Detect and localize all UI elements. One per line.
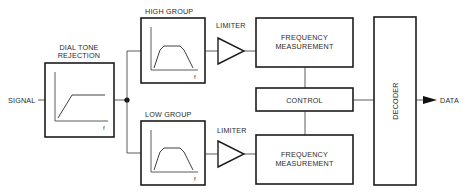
limiter-high-triangle bbox=[218, 38, 244, 64]
freq-low-label-line2: MEASUREMENT bbox=[275, 159, 334, 168]
high-group-axis-f-label: f bbox=[194, 74, 196, 80]
low-group-axis-f-label: f bbox=[194, 176, 196, 182]
control-label: CONTROL bbox=[286, 96, 323, 105]
decoder-label: DECODER bbox=[391, 82, 400, 119]
low-group-label: LOW GROUP bbox=[145, 110, 192, 119]
high-group-label: HIGH GROUP bbox=[145, 7, 193, 16]
dtmf-receiver-block-diagram: SIGNAL DIAL TONE REJECTION f HIGH GROUP … bbox=[0, 0, 467, 192]
dial-tone-rejection-block: f bbox=[45, 63, 114, 137]
output-arrow-icon bbox=[423, 96, 437, 104]
freq-high-label-line2: MEASUREMENT bbox=[275, 42, 334, 51]
dial-tone-label-line2: REJECTION bbox=[58, 51, 101, 60]
low-group-filter-block: f bbox=[141, 121, 205, 185]
limiter-low-label: LIMITER bbox=[217, 126, 247, 135]
signal-input-label: SIGNAL bbox=[8, 96, 36, 105]
limiter-high-label: LIMITER bbox=[216, 21, 246, 30]
freq-high-label-line1: FREQUENCY bbox=[281, 33, 328, 42]
data-output-label: DATA bbox=[440, 96, 459, 105]
limiter-low-triangle bbox=[218, 141, 244, 167]
dial-tone-axis-f-label: f bbox=[103, 125, 105, 131]
freq-low-label-line1: FREQUENCY bbox=[281, 150, 328, 159]
high-group-filter-block: f bbox=[141, 18, 205, 83]
